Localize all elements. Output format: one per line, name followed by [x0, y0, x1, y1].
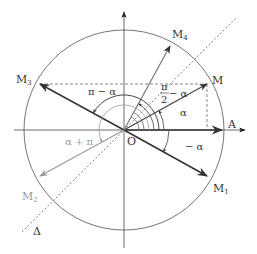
angle-label-alpha: α: [180, 107, 187, 118]
label-m: M: [212, 74, 223, 87]
label-a: A: [227, 118, 237, 131]
svg-text:− α: − α: [169, 88, 188, 99]
arc-pi-over-2-minus-alpha: [139, 104, 155, 130]
angle-label-minus-alpha: − α: [185, 141, 204, 152]
svg-text:2: 2: [161, 94, 167, 105]
label-m2: M2: [22, 190, 38, 204]
label-m3: M3: [16, 73, 32, 87]
bisector-delta-line: [22, 18, 236, 232]
trig-circle-diagram: O A M M1 M2 M3 M4 Δ α − α π − α π 2 − α …: [0, 0, 257, 254]
angle-label-alpha-plus-pi: α + π: [65, 136, 93, 147]
arc-alpha: [159, 111, 164, 130]
label-m4: M4: [172, 28, 188, 42]
label-origin: O: [127, 135, 136, 148]
label-m1: M1: [213, 182, 229, 196]
arc-minus-alpha: [163, 130, 169, 152]
angle-label-pi-minus-alpha: π − α: [88, 86, 116, 97]
angle-label-pi-over-2-minus-alpha: π 2 − α: [160, 81, 188, 105]
svg-text:π: π: [161, 81, 168, 92]
vector-om1: [124, 130, 207, 176]
label-delta: Δ: [33, 225, 41, 238]
